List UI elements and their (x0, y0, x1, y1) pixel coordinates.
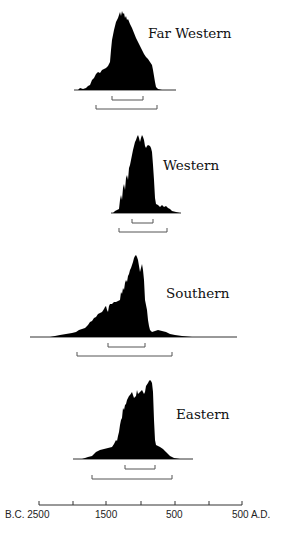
tick-label-500ad: 500 A.D. (232, 509, 270, 520)
distribution-far-western: Far Western (74, 11, 232, 109)
inner-bracket-far-western (112, 96, 143, 100)
distribution-eastern: Eastern (73, 380, 230, 479)
inner-bracket-eastern (125, 465, 155, 469)
tick-label-500: 500 (166, 509, 183, 520)
label-far-western: Far Western (148, 25, 232, 41)
tick-label-1500: 1500 (95, 509, 118, 520)
inner-bracket-western (132, 219, 153, 223)
distribution-southern: Southern (30, 255, 237, 356)
time-axis: B.C. 2500 1500 500 500 A.D. (5, 501, 270, 520)
label-eastern: Eastern (176, 406, 230, 422)
outer-bracket-far-western (96, 105, 157, 109)
silhouette-western (113, 135, 180, 213)
label-western: Western (163, 157, 220, 173)
silhouette-eastern (82, 380, 180, 459)
outer-bracket-southern (77, 352, 172, 356)
distribution-western: Western (111, 135, 220, 232)
label-southern: Southern (166, 285, 230, 301)
chart: Far Western Western Southern Eastern (0, 0, 282, 534)
silhouette-far-western (78, 11, 162, 90)
outer-bracket-eastern (92, 475, 172, 479)
inner-bracket-southern (108, 343, 145, 347)
outer-bracket-western (119, 228, 167, 232)
tick-label-2500bc: B.C. 2500 (5, 509, 50, 520)
